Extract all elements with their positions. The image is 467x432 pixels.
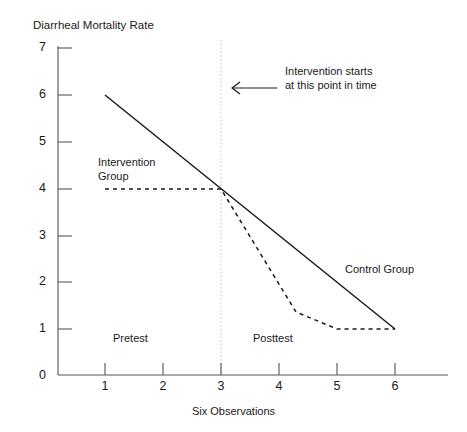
chart-title: Diarrheal Mortality Rate [33,18,154,33]
y-tick-label-4: 4 [28,181,46,195]
callout-arrow-icon [232,82,277,94]
y-tick-label-7: 7 [28,40,46,54]
intervention-callout-text: Intervention startsat this point in time [285,64,377,92]
x-tick-label-1: 1 [95,379,115,393]
posttest-label: Posttest [253,331,293,345]
x-tick-label-5: 5 [327,379,347,393]
callout-line-1: Intervention starts [285,65,372,77]
x-tick-label-4: 4 [269,379,289,393]
y-tick-label-2: 2 [28,274,46,288]
x-tick-label-3: 3 [211,379,231,393]
y-tick-label-1: 1 [28,321,46,335]
y-tick-label-5: 5 [28,134,46,148]
series-control-group [105,95,395,329]
pretest-label: Pretest [113,331,148,345]
control-group-label: Control Group [345,262,414,276]
y-tick-label-6: 6 [28,87,46,101]
chart-plot-area [0,0,467,432]
x-tick-label-6: 6 [385,379,405,393]
series-intervention-group [105,189,395,329]
x-tick-label-2: 2 [153,379,173,393]
y-tick-label-3: 3 [28,228,46,242]
y-axis-ticks [58,48,72,329]
callout-line-2: at this point in time [285,79,377,91]
x-axis-title: Six Observations [0,404,467,418]
y-tick-label-0: 0 [28,368,46,382]
chart-figure: Diarrheal Mortality Rate 7 6 5 4 3 2 1 0… [0,0,467,432]
intervention-group-label: Intervention Group [98,155,155,183]
x-axis-ticks [105,363,395,375]
